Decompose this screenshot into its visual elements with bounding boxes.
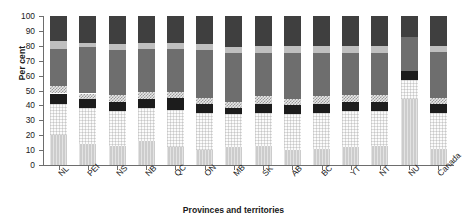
bar-segment-segment-6: [109, 44, 126, 50]
bar-segment-segment-5: [313, 53, 330, 96]
y-axis-tick-label: 70: [5, 55, 35, 67]
bar-segment-segment-1: [255, 146, 272, 165]
bar-canada[interactable]: [430, 16, 447, 165]
bar-nt[interactable]: [371, 16, 388, 165]
bar-segment-segment-3: [50, 94, 67, 104]
bar-pei[interactable]: [79, 16, 96, 165]
bar-segment-segment-7: [50, 16, 67, 41]
y-axis-tick-label: 40: [5, 99, 35, 111]
bar-segment-segment-3: [167, 98, 184, 110]
y-axis-tick-label: 30: [5, 114, 35, 126]
bar-segment-segment-4: [225, 102, 242, 108]
bar-segment-segment-5: [401, 37, 418, 71]
bar-nb[interactable]: [138, 16, 155, 165]
bar-segment-segment-1: [342, 147, 359, 165]
bar-segment-segment-7: [138, 16, 155, 43]
bar-segment-segment-2: [255, 113, 272, 146]
bar-segment-segment-3: [371, 102, 388, 111]
bar-segment-segment-7: [225, 16, 242, 47]
bar-nl[interactable]: [50, 16, 67, 165]
bar-segment-segment-7: [109, 16, 126, 44]
bar-segment-segment-2: [371, 111, 388, 145]
bar-segment-segment-7: [313, 16, 330, 46]
bar-qc[interactable]: [167, 16, 184, 165]
bar-segment-segment-7: [167, 16, 184, 43]
bar-ab[interactable]: [284, 16, 301, 165]
y-axis-tick-mark: [39, 76, 43, 77]
x-axis-spine: [43, 165, 454, 166]
bar-segment-segment-4: [79, 94, 96, 100]
bar-segment-segment-3: [138, 99, 155, 108]
bar-segment-segment-1: [50, 135, 67, 165]
bar-segment-segment-1: [284, 150, 301, 165]
bar-segment-segment-3: [342, 102, 359, 111]
y-axis-tick-mark: [39, 105, 43, 106]
bar-segment-segment-2: [109, 111, 126, 145]
bar-segment-segment-4: [50, 86, 67, 93]
y-axis-tick-label: 100: [5, 10, 35, 22]
bar-segment-segment-7: [401, 16, 418, 37]
bar-segment-segment-6: [284, 46, 301, 53]
y-axis-tick-mark: [39, 165, 43, 166]
bar-segment-segment-2: [401, 80, 418, 99]
y-axis-tick-mark: [39, 16, 43, 17]
y-axis-tick-label: 0: [5, 159, 35, 171]
bar-segment-segment-2: [196, 113, 213, 150]
bar-segment-segment-2: [50, 104, 67, 135]
bar-segment-segment-2: [79, 108, 96, 144]
bar-segment-segment-2: [138, 108, 155, 141]
bar-segment-segment-4: [313, 96, 330, 103]
bar-segment-segment-5: [225, 53, 242, 102]
bar-on[interactable]: [196, 16, 213, 165]
bar-segment-segment-3: [313, 104, 330, 113]
bar-nu[interactable]: [401, 16, 418, 165]
bar-segment-segment-6: [138, 43, 155, 49]
bar-segment-segment-4: [255, 96, 272, 103]
bar-segment-segment-5: [342, 53, 359, 95]
bar-segment-segment-3: [255, 104, 272, 113]
bar-yt[interactable]: [342, 16, 359, 165]
bar-segment-segment-5: [138, 49, 155, 92]
y-axis-tick-label: 80: [5, 40, 35, 52]
bar-segment-segment-5: [167, 49, 184, 92]
bar-segment-segment-2: [284, 114, 301, 150]
y-axis-tick-mark: [39, 150, 43, 151]
bar-segment-segment-5: [430, 52, 447, 98]
bar-mb[interactable]: [225, 16, 242, 165]
bar-segment-segment-4: [196, 98, 213, 104]
bar-sk[interactable]: [255, 16, 272, 165]
bar-segment-segment-7: [79, 16, 96, 43]
bar-segment-segment-6: [196, 44, 213, 50]
bar-segment-segment-4: [138, 92, 155, 99]
y-axis-tick-mark: [39, 91, 43, 92]
bar-segment-segment-4: [167, 92, 184, 98]
bar-segment-segment-3: [284, 105, 301, 114]
bar-segment-segment-6: [167, 43, 184, 49]
bar-segment-segment-1: [371, 146, 388, 165]
bar-segment-segment-3: [225, 108, 242, 114]
bar-bc[interactable]: [313, 16, 330, 165]
y-axis-tick-mark: [39, 61, 43, 62]
bar-ns[interactable]: [109, 16, 126, 165]
y-axis-tick-mark: [39, 120, 43, 121]
bar-segment-segment-5: [196, 50, 213, 98]
bar-segment-segment-6: [225, 47, 242, 53]
bar-segment-segment-5: [79, 47, 96, 93]
bar-segment-segment-7: [196, 16, 213, 44]
bar-segment-segment-4: [430, 98, 447, 104]
bar-segment-segment-4: [371, 95, 388, 102]
bar-segment-segment-4: [284, 99, 301, 105]
y-axis-tick-mark: [39, 46, 43, 47]
bar-segment-segment-4: [109, 95, 126, 102]
bar-segment-segment-2: [313, 113, 330, 149]
bar-segment-segment-3: [109, 102, 126, 111]
bar-segment-segment-6: [255, 46, 272, 53]
bar-segment-segment-1: [401, 99, 418, 165]
y-axis-tick-label: 50: [5, 85, 35, 97]
bar-segment-segment-2: [430, 113, 447, 149]
x-axis-title: Provinces and territories: [0, 205, 467, 215]
bar-segment-segment-5: [50, 49, 67, 86]
bar-segment-segment-6: [79, 43, 96, 47]
y-axis-tick-label: 10: [5, 144, 35, 156]
bar-segment-segment-6: [50, 41, 67, 48]
